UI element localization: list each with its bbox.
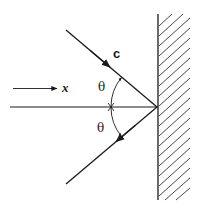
incident-ray <box>66 30 157 107</box>
velocity-label: c <box>113 47 120 60</box>
wall-hatching <box>159 14 190 200</box>
reflection-diagram <box>0 0 201 211</box>
arc-top <box>111 78 122 108</box>
wall <box>158 14 190 200</box>
angle-label-top: θ <box>98 81 105 93</box>
reflected-ray <box>66 107 157 184</box>
direction-label: x <box>62 81 69 94</box>
incident-ray-arrow <box>90 50 110 67</box>
arc-bottom <box>111 107 122 137</box>
angle-label-bottom: θ <box>97 122 104 134</box>
